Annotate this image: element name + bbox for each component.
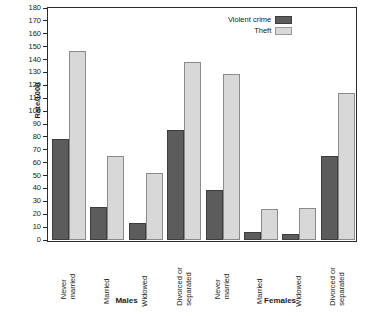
x-axis-category: Widowed — [281, 243, 317, 295]
legend-swatch-violent — [275, 16, 292, 24]
bar-violent-crime — [167, 130, 184, 240]
y-axis-tick-label: 100 — [28, 106, 41, 115]
x-axis-category: Married — [89, 243, 125, 295]
bar-violent-crime — [244, 232, 261, 240]
x-axis-category: Nevermarried — [51, 243, 87, 295]
y-axis-tick-label: 30 — [33, 196, 41, 205]
y-axis-tick-label: 20 — [33, 209, 41, 218]
bar-violent-crime — [282, 234, 299, 240]
y-axis-tick-label: 170 — [28, 16, 41, 25]
y-axis-tick-label: 110 — [29, 93, 41, 102]
bar-violent-crime — [90, 207, 107, 241]
y-axis-tick-label: 180 — [28, 3, 41, 12]
group-label-males: Males — [52, 296, 201, 305]
y-axis-ticks: 0102030405060708090100110120130140150160… — [0, 7, 47, 240]
x-axis-category: Nevermarried — [205, 243, 241, 295]
x-axis-category-labels: NevermarriedMarriedWidowedDivorced orsep… — [48, 243, 355, 295]
bar-violent-crime — [321, 156, 338, 240]
y-axis-tick-label: 150 — [28, 42, 41, 51]
legend-item: Theft — [228, 25, 292, 36]
bar-theft — [107, 156, 124, 240]
y-axis-tick-label: 80 — [33, 132, 41, 141]
y-axis-tick-label: 90 — [33, 119, 41, 128]
bar-theft — [184, 62, 201, 240]
legend-item: Violent crime — [228, 14, 292, 25]
y-axis-tick-label: 0 — [37, 235, 41, 244]
y-axis-tick-label: 70 — [33, 145, 41, 154]
bar-theft — [146, 173, 163, 240]
bar-violent-crime — [129, 223, 146, 240]
chart-legend: Violent crimeTheft — [228, 14, 292, 36]
y-axis-tick-label: 140 — [28, 55, 41, 64]
bar-violent-crime — [206, 190, 223, 240]
x-axis-category: Divorced orseparated — [320, 243, 356, 295]
y-axis-tick-label: 120 — [28, 80, 41, 89]
legend-label: Violent crime — [228, 14, 271, 25]
bar-violent-crime — [52, 139, 69, 240]
bar-theft — [299, 208, 316, 240]
bar-theft — [338, 93, 355, 240]
x-axis-group-labels: MalesFemales — [48, 296, 355, 310]
x-axis-category: Married — [243, 243, 279, 295]
group-label-females: Females — [206, 296, 355, 305]
bar-theft — [69, 51, 86, 240]
y-axis-tick-label: 130 — [28, 67, 41, 76]
bar-chart-figure: Rate/1000 010203040506070809010011012013… — [0, 0, 366, 316]
y-axis-tick-label: 60 — [33, 158, 41, 167]
y-axis-tick-label: 50 — [33, 171, 41, 180]
x-axis-category: Widowed — [128, 243, 164, 295]
y-axis-tick-label: 40 — [33, 183, 41, 192]
bars-layer — [48, 8, 355, 240]
y-axis-tick-label: 10 — [33, 222, 41, 231]
y-axis-tick-label: 160 — [28, 29, 41, 38]
bar-theft — [223, 74, 240, 240]
legend-swatch-theft — [275, 27, 292, 35]
legend-label: Theft — [254, 25, 271, 36]
x-axis-category: Divorced orseparated — [166, 243, 202, 295]
bar-theft — [261, 209, 278, 240]
